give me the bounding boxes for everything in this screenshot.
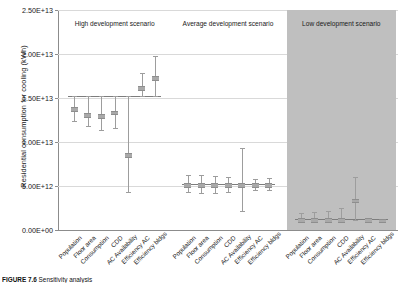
bar-range-line xyxy=(242,148,243,210)
y-axis-tick xyxy=(55,186,58,187)
bar-marker xyxy=(111,111,118,116)
bar-cap-high xyxy=(253,179,258,180)
bar-cap-high xyxy=(339,208,344,209)
bar-marker xyxy=(298,218,305,223)
scenario-title: Average development scenario xyxy=(183,20,274,27)
bar-marker xyxy=(125,153,132,158)
scenario-title: High development scenario xyxy=(75,20,155,27)
bar-marker xyxy=(152,76,159,81)
bar-marker xyxy=(265,183,272,188)
bar-marker xyxy=(71,107,78,112)
bar-cap-low xyxy=(86,126,91,127)
y-axis-tick-label: 2.50E+13 xyxy=(22,6,53,15)
bar-marker xyxy=(352,199,359,204)
bar-cap-high xyxy=(353,177,358,178)
bar-cap-low xyxy=(199,193,204,194)
bar-marker xyxy=(325,218,332,223)
bar-cap-low xyxy=(113,128,118,129)
bar-range-line xyxy=(142,73,143,96)
bar-cap-high xyxy=(312,212,317,213)
y-axis-tick xyxy=(55,230,58,231)
bar-range-line xyxy=(101,96,102,129)
bar-cap-low xyxy=(99,130,104,131)
bar-cap-high xyxy=(213,176,218,177)
bar-marker xyxy=(311,218,318,223)
bar-marker xyxy=(225,183,232,188)
bar-marker xyxy=(238,183,245,188)
bar-marker xyxy=(98,114,105,119)
bar-cap-low xyxy=(253,190,258,191)
bar-cap-high xyxy=(99,96,104,97)
bar-marker xyxy=(211,183,218,188)
y-axis-tick-label: 2.00E+13 xyxy=(22,50,53,59)
bar-cap-high xyxy=(199,175,204,176)
y-axis-tick xyxy=(55,54,58,55)
bar-marker xyxy=(184,183,191,188)
plot-area: 0.00E+005.00E+121.00E+131.50E+132.00E+13… xyxy=(58,10,398,230)
bar-cap-low xyxy=(226,192,231,193)
bar-cap-high xyxy=(299,213,304,214)
bar-marker xyxy=(198,183,205,188)
bar-cap-high xyxy=(153,56,158,57)
bar-range-line xyxy=(128,96,129,192)
y-axis-line xyxy=(58,10,59,230)
bar-marker xyxy=(365,218,372,223)
bar-cap-low xyxy=(72,121,77,122)
bar-cap-high xyxy=(267,178,272,179)
scenario-shading xyxy=(287,10,396,230)
bar-cap-high xyxy=(186,175,191,176)
bar-cap-low xyxy=(153,96,158,97)
bar-marker xyxy=(252,183,259,188)
y-axis-tick-label: 1.00E+13 xyxy=(22,138,53,147)
bar-cap-low xyxy=(213,193,218,194)
bar-cap-low xyxy=(126,192,131,193)
y-axis-tick-label: 1.50E+13 xyxy=(22,94,53,103)
y-axis-tick xyxy=(55,10,58,11)
bar-cap-low xyxy=(267,190,272,191)
bar-cap-high xyxy=(326,211,331,212)
bar-marker xyxy=(379,219,386,224)
bar-cap-high xyxy=(86,96,91,97)
figure-caption: FIGURE 7.6 Sensitivity analysis xyxy=(2,276,404,283)
bar-cap-high xyxy=(72,96,77,97)
bar-cap-high xyxy=(113,96,118,97)
y-axis-tick xyxy=(55,98,58,99)
bar-cap-low xyxy=(240,211,245,212)
scenario-title: Low development scenario xyxy=(302,20,380,27)
y-axis-tick-label: 0.00E+00 xyxy=(22,226,53,235)
caption-label: FIGURE 7.6 xyxy=(2,276,37,283)
bar-cap-high xyxy=(240,148,245,149)
bar-cap-high xyxy=(226,177,231,178)
bar-marker xyxy=(338,218,345,223)
bar-cap-low xyxy=(186,192,191,193)
figure-sensitivity-analysis: Residential consumption for cooling (kWh… xyxy=(0,0,406,285)
bar-range-line xyxy=(88,96,89,126)
caption-text: Sensitivity analysis xyxy=(39,276,93,283)
bar-cap-high xyxy=(126,96,131,97)
bar-marker xyxy=(138,86,145,91)
bar-marker xyxy=(84,113,91,118)
y-axis-tick xyxy=(55,142,58,143)
x-axis-line xyxy=(58,230,398,231)
bar-cap-high xyxy=(140,73,145,74)
bar-cap-low xyxy=(140,96,145,97)
y-axis-tick-label: 5.00E+12 xyxy=(22,182,53,191)
bar-cap-low xyxy=(353,220,358,221)
